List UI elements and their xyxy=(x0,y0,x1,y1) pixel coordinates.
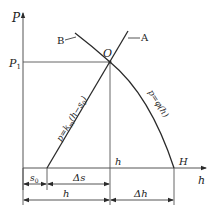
h-mark-label: h xyxy=(115,156,121,167)
dim-delta-h-label: Δh xyxy=(133,188,148,199)
b-leader xyxy=(65,37,76,40)
y-axis-label: P xyxy=(11,11,21,25)
dim-s0-label: s0 xyxy=(30,173,39,184)
dim-h-label: h xyxy=(63,188,69,199)
x-axis-label: h xyxy=(198,174,205,187)
point-o-label: O xyxy=(103,47,112,60)
point-a-label: A xyxy=(140,32,149,43)
pump-line-label: p=km(h−s0) xyxy=(54,94,90,143)
point-h-label: H xyxy=(178,156,188,167)
dim-delta-s-label: Δs xyxy=(72,172,85,183)
diagram-canvas: P h P1 O A B H h p=km(h−s0) p=φ(h) s0 Δs… xyxy=(0,0,221,221)
point-b-label: B xyxy=(57,35,64,46)
point-o xyxy=(109,61,112,64)
p1-label: P1 xyxy=(8,57,21,71)
curve-label: p=φ(h) xyxy=(146,88,171,119)
